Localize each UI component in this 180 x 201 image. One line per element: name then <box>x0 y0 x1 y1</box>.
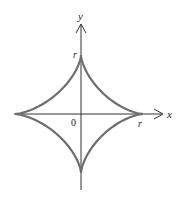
y-axis-label: y <box>77 10 83 22</box>
y-intercept-label: r <box>73 49 77 60</box>
astroid-diagram: y x 0 r r <box>0 0 180 201</box>
x-intercept-label: r <box>138 118 142 129</box>
x-axis-label: x <box>166 108 172 120</box>
origin-label: 0 <box>71 117 76 128</box>
